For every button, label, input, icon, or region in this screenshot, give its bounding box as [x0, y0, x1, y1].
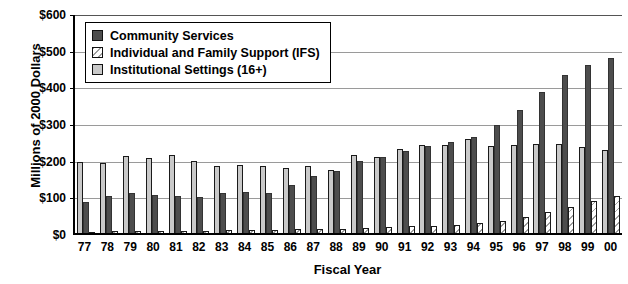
x-axis-tick-label: 82 — [187, 240, 210, 258]
x-axis-tick-label: 94 — [462, 240, 485, 258]
legend-swatch-comm — [92, 30, 103, 41]
legend-label: Community Services — [110, 29, 234, 43]
bar-comm — [243, 192, 249, 233]
bar-group — [508, 15, 531, 233]
bar-ifs — [135, 231, 141, 233]
x-axis-tick-label: 80 — [142, 240, 165, 258]
bar-comm — [334, 171, 340, 233]
bar-ifs — [340, 229, 346, 233]
bar-comm — [494, 125, 500, 233]
x-axis-tick-label: 90 — [370, 240, 393, 258]
legend-item: Individual and Family Support (IFS) — [92, 44, 320, 61]
bar-ifs — [523, 217, 529, 233]
x-axis-tick-label: 83 — [210, 240, 233, 258]
legend-item: Community Services — [92, 27, 320, 44]
x-axis-tick-label: 98 — [553, 240, 576, 258]
bar-ifs — [363, 228, 369, 233]
x-axis-title: Fiscal Year — [73, 262, 622, 277]
x-axis-tick-label: 86 — [279, 240, 302, 258]
y-axis-tick-label: $200 — [39, 155, 66, 169]
bar-comm — [517, 110, 523, 233]
bar-group — [394, 15, 417, 233]
x-axis-tick-label: 77 — [73, 240, 96, 258]
bar-group — [463, 15, 486, 233]
x-axis-tick-label: 97 — [531, 240, 554, 258]
bar-ifs — [409, 226, 415, 233]
bar-comm — [357, 161, 363, 233]
bar-comm — [220, 193, 226, 233]
y-axis-tick-label: $300 — [39, 118, 66, 132]
legend-swatch-ifs — [92, 47, 103, 58]
y-axis-tick-label: $0 — [53, 228, 66, 242]
bar-ifs — [454, 225, 460, 233]
x-axis-tick-label: 79 — [119, 240, 142, 258]
bar-group — [417, 15, 440, 233]
x-axis-tick-label: 85 — [256, 240, 279, 258]
bar-group — [440, 15, 463, 233]
bar-ifs — [226, 230, 232, 233]
x-axis-tick-label: 91 — [393, 240, 416, 258]
x-axis-tick-label: 89 — [348, 240, 371, 258]
bar-ifs — [317, 229, 323, 233]
bar-comm — [129, 193, 135, 233]
bar-group — [599, 15, 622, 233]
x-axis-tick-label: 84 — [233, 240, 256, 258]
bar-ifs — [545, 212, 551, 233]
bar-ifs — [112, 231, 118, 233]
bar-comm — [289, 185, 295, 233]
bar-comm — [266, 193, 272, 233]
bar-comm — [175, 196, 181, 233]
y-axis-tick-label: $400 — [39, 81, 66, 95]
bar-comm — [471, 137, 477, 233]
y-axis-tick-label: $500 — [39, 45, 66, 59]
bar-comm — [106, 196, 112, 233]
x-axis-tick-label: 99 — [576, 240, 599, 258]
chart-legend: Community ServicesIndividual and Family … — [85, 22, 331, 83]
bar-comm — [152, 195, 158, 234]
bar-ifs — [272, 230, 278, 233]
x-axis-tick-label: 96 — [508, 240, 531, 258]
x-axis-tick-label: 87 — [302, 240, 325, 258]
x-axis-tick-label: 95 — [485, 240, 508, 258]
bar-ifs — [500, 221, 506, 233]
bar-ifs — [568, 207, 574, 233]
bar-ifs — [477, 223, 483, 233]
y-axis-tick-labels: $600$500$400$300$200$100$0 — [0, 0, 70, 284]
bar-ifs — [181, 231, 187, 233]
bar-group — [577, 15, 600, 233]
bar-group — [531, 15, 554, 233]
legend-label: Individual and Family Support (IFS) — [110, 46, 320, 60]
bar-group — [349, 15, 372, 233]
x-axis-tick-label: 88 — [325, 240, 348, 258]
y-axis-tick-label: $600 — [39, 8, 66, 22]
x-axis-tick-label: 78 — [96, 240, 119, 258]
y-axis-tick-label: $100 — [39, 191, 66, 205]
x-axis-tick-label: 81 — [165, 240, 188, 258]
bar-ifs — [249, 230, 255, 233]
bar-ifs — [89, 232, 95, 233]
bar-chart: Millions of 2000 Dollars $600$500$400$30… — [0, 0, 628, 284]
bar-group — [554, 15, 577, 233]
bar-comm — [380, 157, 386, 233]
bar-ifs — [203, 231, 209, 233]
bar-group — [485, 15, 508, 233]
bar-comm — [448, 142, 454, 233]
legend-item: Institutional Settings (16+) — [92, 61, 320, 78]
x-axis-tick-labels: 7778798081828384858687888990919293949596… — [73, 240, 622, 258]
bar-ifs — [158, 231, 164, 233]
bar-comm — [403, 151, 409, 233]
bar-comm — [197, 197, 203, 233]
bar-ifs — [295, 229, 301, 233]
bar-ifs — [386, 227, 392, 233]
bar-ifs — [614, 196, 620, 233]
bar-ifs — [591, 201, 597, 233]
legend-label: Institutional Settings (16+) — [110, 63, 267, 77]
bar-ifs — [431, 226, 437, 233]
bar-comm — [311, 176, 317, 233]
bar-comm — [425, 146, 431, 233]
legend-swatch-inst — [92, 64, 103, 75]
x-axis-tick-label: 00 — [599, 240, 622, 258]
x-axis-tick-label: 92 — [416, 240, 439, 258]
bar-group — [371, 15, 394, 233]
x-axis-tick-label: 93 — [439, 240, 462, 258]
